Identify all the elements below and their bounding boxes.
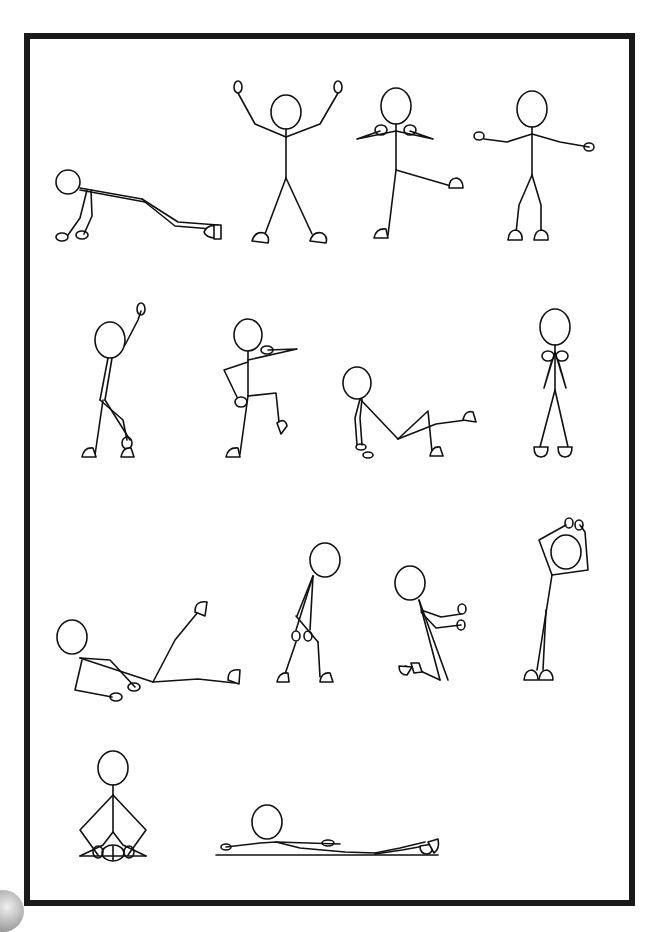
pose-hands-to-chest xyxy=(534,309,572,457)
pose-kneeling-arms-forward xyxy=(395,566,466,680)
pose-knee-raise-point xyxy=(224,319,297,457)
pose-side-stretch xyxy=(82,303,145,457)
pose-overhead-stretch xyxy=(524,518,588,680)
pose-seated-butterfly xyxy=(80,751,146,861)
pose-lying-down xyxy=(216,805,439,855)
pose-arms-raised xyxy=(234,81,342,243)
pose-forward-bend xyxy=(277,543,340,682)
pose-side-kick xyxy=(357,88,463,238)
pose-reclined-leg-raise xyxy=(57,602,240,701)
pose-arms-out xyxy=(474,91,594,240)
pose-plank xyxy=(56,170,221,241)
pose-seated-leg-raise xyxy=(343,367,476,458)
